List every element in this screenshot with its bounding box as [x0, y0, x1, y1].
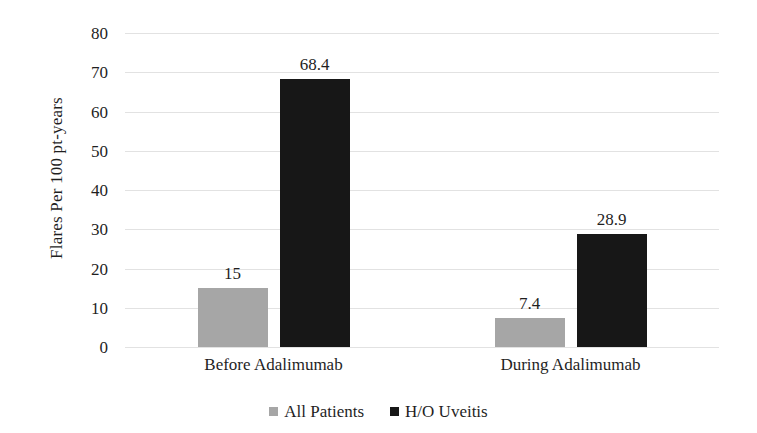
x-axis-category-labels: Before AdalimumabDuring Adalimumab: [125, 352, 719, 380]
chart-legend: All PatientsH/O Uveitis: [0, 398, 757, 424]
x-axis-category-label: Before Adalimumab: [125, 352, 422, 378]
bar-all-patients[interactable]: [495, 318, 565, 347]
y-axis-tick-label: 50: [62, 142, 108, 159]
y-axis-tick-label: 70: [62, 64, 108, 81]
legend-swatch-icon: [390, 407, 399, 416]
y-axis-tick-labels: 80706050403020100: [62, 0, 108, 433]
bar-chart: Flares Per 100 pt-years 8070605040302010…: [0, 0, 757, 433]
bar-ho-uveitis[interactable]: [280, 79, 350, 347]
bar-value-label: 15: [198, 265, 268, 282]
y-axis-tick-label: 80: [62, 25, 108, 42]
bar-value-label: 28.9: [577, 211, 647, 228]
bar-group: 7.428.9: [495, 33, 647, 347]
legend-swatch-icon: [269, 407, 278, 416]
bar-ho-uveitis[interactable]: [577, 234, 647, 347]
legend-item[interactable]: All Patients: [269, 403, 364, 420]
x-axis-category-label: During Adalimumab: [422, 352, 719, 378]
legend-label: H/O Uveitis: [405, 403, 488, 420]
y-axis-tick-label: 20: [62, 260, 108, 277]
plot-area: 1568.47.428.9: [125, 33, 719, 347]
bar-group: 1568.4: [198, 33, 350, 347]
y-axis-tick-label: 40: [62, 182, 108, 199]
y-axis-tick-label: 10: [62, 299, 108, 316]
y-axis-tick-label: 30: [62, 221, 108, 238]
bar-all-patients[interactable]: [198, 288, 268, 347]
bars-layer: 1568.47.428.9: [125, 33, 719, 347]
gridline: [125, 347, 719, 348]
y-axis-tick-label: 60: [62, 103, 108, 120]
y-axis-tick-label: 0: [62, 339, 108, 356]
bar-value-label: 68.4: [280, 56, 350, 73]
legend-label: All Patients: [284, 403, 364, 420]
legend-item[interactable]: H/O Uveitis: [390, 403, 488, 420]
bar-value-label: 7.4: [495, 295, 565, 312]
